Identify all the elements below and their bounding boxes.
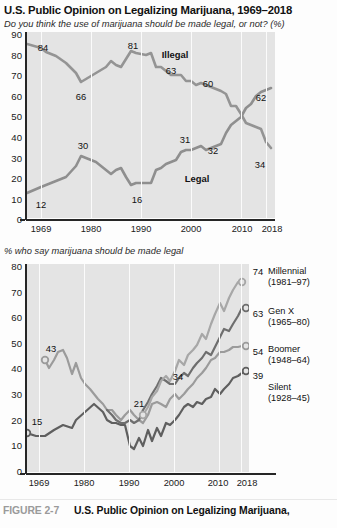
- series-label-legal: Legal: [185, 173, 210, 184]
- legend-item-genx-years: (1965–80): [268, 317, 310, 328]
- y-axis-tick-label: 50: [0, 111, 22, 122]
- y-axis-tick-label: 80: [0, 49, 22, 60]
- y-axis-tick-label: 70: [0, 286, 22, 297]
- x-axis-tick-label: 2018: [237, 478, 258, 488]
- legend-item-millennial-name: Millennial: [268, 266, 306, 277]
- data-label: 60: [203, 78, 213, 89]
- x-axis-tick-label: 1980: [74, 478, 95, 488]
- data-label: 34: [255, 159, 265, 170]
- figure-page: U.S. Public Opinion on Legalizing Mariju…: [0, 0, 337, 528]
- gridline: [219, 264, 220, 472]
- data-label: 31: [180, 134, 190, 145]
- chart-top-lines: [27, 32, 275, 218]
- y-axis-tick-label: 30: [0, 152, 22, 163]
- x-axis-line: [26, 219, 275, 221]
- y-axis-tick-label: 10: [0, 193, 22, 204]
- data-label-boomer: 54: [253, 346, 263, 357]
- series-line-legal: [27, 88, 271, 193]
- y-axis-tick-label: 80: [0, 261, 22, 272]
- figure-caption-text: U.S. Public Opinion on Legalizing Mariju…: [74, 505, 290, 516]
- chart-bottom-lines: [27, 264, 249, 472]
- data-label: 12: [36, 199, 46, 210]
- startpoint-marker-silent: [27, 430, 30, 437]
- series-line-millennial: [143, 282, 242, 415]
- y-axis-tick-label: 60: [0, 90, 22, 101]
- y-axis-tick-label: 90: [0, 29, 22, 40]
- y-axis-tick-label: 50: [0, 337, 22, 348]
- axis-tick: [20, 219, 25, 221]
- data-label: 30: [78, 140, 88, 151]
- caption-divider: [0, 499, 337, 500]
- gridline: [191, 32, 192, 218]
- chart-bottom-header: % who say marijuana should be made legal: [4, 246, 183, 256]
- x-axis-tick-label: 1969: [31, 224, 52, 234]
- plot-area-bottom: 43 15 21 34: [27, 264, 249, 472]
- legend-item-boomer-years: (1948–64): [268, 355, 310, 366]
- figure-number: FIGURE 2-7: [3, 505, 59, 516]
- y-axis-tick-label: 0: [0, 465, 22, 476]
- data-label: 34: [173, 371, 183, 382]
- x-axis-line: [26, 473, 276, 475]
- y-axis-tick-label: 60: [0, 312, 22, 323]
- data-label: 81: [128, 40, 138, 51]
- x-axis-tick-label: 1990: [119, 478, 140, 488]
- endpoint-marker-millennial: [239, 279, 246, 286]
- y-axis-tick-label: 0: [0, 214, 22, 225]
- y-axis-line: [25, 32, 27, 220]
- y-axis-tick-label: 70: [0, 70, 22, 81]
- data-label: 84: [38, 42, 48, 53]
- gridline: [84, 264, 85, 472]
- series-label-illegal: Illegal: [162, 49, 189, 60]
- x-axis-tick-label: 1969: [29, 478, 50, 488]
- legend-item-boomer-name: Boomer: [268, 344, 300, 355]
- data-label: 32: [208, 145, 218, 156]
- series-line-silent: [27, 371, 246, 449]
- page-subtitle: Do you think the use of marijuana should…: [4, 19, 285, 29]
- chart-bottom: 80 70 60 50 40 30 20 10 0: [0, 256, 337, 486]
- y-axis-tick-label: 40: [0, 363, 22, 374]
- gridline: [174, 264, 175, 472]
- x-axis-tick-label: 2010: [208, 478, 229, 488]
- x-axis-tick-label: 1980: [81, 224, 102, 234]
- figure-caption: FIGURE 2-7 U.S. Public Opinion on Legali…: [3, 505, 337, 516]
- y-axis-tick-label: 20: [0, 414, 22, 425]
- data-label-silent: 39: [253, 370, 263, 381]
- data-label: 43: [46, 343, 56, 354]
- y-axis-tick-label: 20: [0, 173, 22, 184]
- page-title: U.S. Public Opinion on Legalizing Mariju…: [4, 4, 292, 16]
- gridline: [39, 264, 40, 472]
- data-label: 63: [166, 65, 176, 76]
- series-line-illegal: [27, 44, 271, 148]
- legend-item-silent-name: Silent: [268, 382, 291, 393]
- y-axis-tick-label: 30: [0, 389, 22, 400]
- y-axis-tick-label: 40: [0, 132, 22, 143]
- endpoint-marker-boomer: [243, 343, 249, 350]
- data-label: 66: [76, 91, 86, 102]
- legend-item-silent-years: (1928–45): [268, 393, 310, 404]
- gridline: [241, 264, 242, 472]
- data-label: 16: [132, 194, 142, 205]
- x-axis-tick-label: 2010: [232, 224, 253, 234]
- data-label: 15: [32, 416, 42, 427]
- gridline: [41, 32, 42, 218]
- gridline: [241, 32, 242, 218]
- data-label-millennial: 74: [253, 266, 263, 277]
- endpoint-marker-silent: [243, 368, 249, 375]
- x-axis-tick-label: 2000: [164, 478, 185, 488]
- chart-top: 90 80 70 60 50 40 30 20 10 0 84 66: [0, 30, 337, 235]
- data-label-genx: 63: [253, 308, 263, 319]
- gridline: [266, 32, 267, 218]
- endpoint-marker-genx: [243, 305, 249, 312]
- x-axis-tick-label: 2000: [181, 224, 202, 234]
- y-axis-tick-label: 10: [0, 440, 22, 451]
- legend-item-millennial-years: (1981–97): [268, 277, 310, 288]
- legend-item-genx-name: Gen X: [268, 306, 294, 317]
- gridline: [129, 264, 130, 472]
- axis-tick: [20, 473, 25, 475]
- startpoint-marker-millennial: [140, 412, 147, 419]
- y-axis-line: [25, 264, 27, 474]
- startpoint-marker-boomer: [42, 357, 49, 364]
- gridline: [91, 32, 92, 218]
- x-axis-tick-label: 2018: [262, 224, 283, 234]
- plot-area-top: 84 66 81 63 60 34 12 30 16 31 32 62 Ille…: [27, 32, 275, 218]
